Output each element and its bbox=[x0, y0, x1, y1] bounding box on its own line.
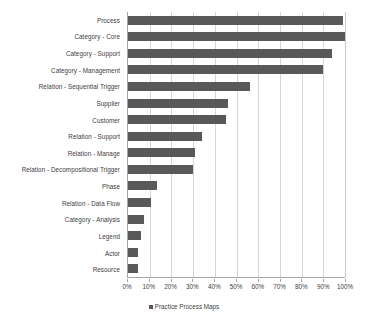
x-axis-tick-label: 40% bbox=[208, 283, 221, 291]
bar bbox=[128, 264, 138, 273]
y-axis-tick-label: Relation - Data Flow bbox=[0, 195, 124, 212]
x-axis-tick-mark bbox=[323, 279, 324, 282]
bar bbox=[128, 49, 332, 58]
y-axis-tick-label: Resource bbox=[0, 261, 124, 278]
category-label-text: Relation - Data Flow bbox=[62, 200, 120, 207]
y-axis-tick-label: Relation - Sequential Trigger bbox=[0, 79, 124, 96]
y-axis-tick-label: Actor bbox=[0, 245, 124, 262]
x-axis-tick-mark bbox=[149, 279, 150, 282]
category-label-text: Process bbox=[97, 17, 120, 24]
y-axis-tick-label: Category - Management bbox=[0, 62, 124, 79]
category-label-text: Relation - Decompositional Trigger bbox=[22, 166, 120, 173]
bar-row bbox=[128, 128, 345, 145]
y-axis-tick-label: Customer bbox=[0, 112, 124, 129]
bar-row bbox=[128, 12, 345, 29]
category-label-text: Category - Analysis bbox=[65, 216, 120, 223]
bar bbox=[128, 248, 138, 257]
bar-row bbox=[128, 244, 345, 261]
y-axis-tick-label: Category - Analysis bbox=[0, 212, 124, 229]
bar-row bbox=[128, 145, 345, 162]
bar-row bbox=[128, 178, 345, 195]
bar bbox=[128, 231, 141, 240]
x-axis-tick-mark bbox=[127, 279, 128, 282]
bar-row bbox=[128, 29, 345, 46]
x-axis-tick-mark bbox=[192, 279, 193, 282]
x-axis-tick-label: 10% bbox=[142, 283, 155, 291]
bar-row bbox=[128, 260, 345, 277]
category-label-text: Resource bbox=[93, 266, 120, 273]
bar bbox=[128, 198, 151, 207]
category-label-text: Phase bbox=[102, 183, 120, 190]
category-label-text: Supplier bbox=[96, 100, 120, 107]
category-label-text: Relation - Support bbox=[68, 133, 120, 140]
bar bbox=[128, 181, 157, 190]
y-axis-tick-label: Phase bbox=[0, 178, 124, 195]
bar-row bbox=[128, 194, 345, 211]
y-axis-tick-label: Legend bbox=[0, 228, 124, 245]
x-axis-tick-mark bbox=[171, 279, 172, 282]
x-axis-tick-label: 100% bbox=[337, 283, 353, 291]
x-axis-tick-label: 70% bbox=[273, 283, 286, 291]
y-axis-tick-label: Relation - Support bbox=[0, 128, 124, 145]
y-axis-category-labels: ProcessCategory - CoreCategory - Support… bbox=[0, 12, 124, 278]
y-axis-tick-label: Relation - Manage bbox=[0, 145, 124, 162]
bar-row bbox=[128, 78, 345, 95]
category-label-text: Relation - Manage bbox=[68, 150, 120, 157]
x-axis-tick-label: 50% bbox=[230, 283, 243, 291]
bar bbox=[128, 148, 195, 157]
bar-row bbox=[128, 45, 345, 62]
y-axis-tick-label: Relation - Decompositional Trigger bbox=[0, 162, 124, 179]
legend-label: Practice Process Maps bbox=[155, 303, 219, 311]
x-axis-tick-mark bbox=[214, 279, 215, 282]
bar-row bbox=[128, 95, 345, 112]
gridline bbox=[345, 12, 346, 277]
y-axis-tick-label: Category - Core bbox=[0, 29, 124, 46]
x-axis-tick-label: 90% bbox=[317, 283, 330, 291]
bar-row bbox=[128, 227, 345, 244]
bars-layer bbox=[128, 12, 345, 277]
bar bbox=[128, 215, 144, 224]
plot-area bbox=[127, 12, 345, 278]
bar-chart: ProcessCategory - CoreCategory - Support… bbox=[0, 0, 368, 326]
bar bbox=[128, 115, 226, 124]
x-axis-tick-label: 60% bbox=[251, 283, 264, 291]
x-axis-tick-mark bbox=[236, 279, 237, 282]
legend-item: Practice Process Maps bbox=[149, 303, 219, 311]
category-label-text: Actor bbox=[105, 250, 120, 257]
y-axis-tick-label: Category - Support bbox=[0, 45, 124, 62]
category-label-text: Legend bbox=[99, 233, 120, 240]
chart-legend: Practice Process Maps bbox=[0, 303, 368, 311]
category-label-text: Relation - Sequential Trigger bbox=[39, 83, 120, 90]
bar-row bbox=[128, 161, 345, 178]
bar bbox=[128, 32, 345, 41]
category-label-text: Category - Core bbox=[74, 33, 120, 40]
x-axis-tick-mark bbox=[258, 279, 259, 282]
legend-swatch-icon bbox=[149, 305, 153, 309]
bar bbox=[128, 132, 202, 141]
bar-row bbox=[128, 211, 345, 228]
category-label-text: Category - Management bbox=[51, 67, 120, 74]
y-axis-tick-label: Process bbox=[0, 12, 124, 29]
y-axis-tick-label: Supplier bbox=[0, 95, 124, 112]
x-axis-tick-label: 0% bbox=[122, 283, 131, 291]
bar-row bbox=[128, 62, 345, 79]
bar-row bbox=[128, 111, 345, 128]
bar bbox=[128, 99, 228, 108]
bar bbox=[128, 165, 193, 174]
x-axis-tick-label: 30% bbox=[186, 283, 199, 291]
category-label-text: Customer bbox=[92, 117, 120, 124]
bar bbox=[128, 16, 343, 25]
x-axis: 0%10%20%30%40%50%60%70%80%90%100% bbox=[127, 279, 345, 293]
category-label-text: Category - Support bbox=[66, 50, 120, 57]
x-axis-tick-label: 80% bbox=[295, 283, 308, 291]
bar bbox=[128, 65, 323, 74]
bar bbox=[128, 82, 250, 91]
x-axis-tick-mark bbox=[345, 279, 346, 282]
x-axis-tick-mark bbox=[301, 279, 302, 282]
x-axis-tick-label: 20% bbox=[164, 283, 177, 291]
x-axis-tick-mark bbox=[280, 279, 281, 282]
